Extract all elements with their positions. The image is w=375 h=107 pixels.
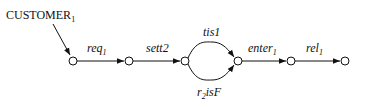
state-node-3 xyxy=(181,57,189,65)
label-rel1: rel1 xyxy=(306,41,323,57)
state-node-4 xyxy=(234,57,242,65)
label-enter1: enter1 xyxy=(248,41,277,57)
transition-diagram: CUSTOMER1 req1 sett2 tis1 r2isF enter1 r… xyxy=(0,0,375,107)
label-tis1: tis1 xyxy=(203,25,220,39)
edge-tis1 xyxy=(188,42,234,58)
state-node-2 xyxy=(125,57,133,65)
label-req1: req1 xyxy=(87,41,107,57)
state-node-1 xyxy=(69,57,77,65)
label-r2isF: r2isF xyxy=(197,85,222,101)
edge-r2isF xyxy=(188,64,234,80)
label-sett2: sett2 xyxy=(146,41,169,55)
customer-arrow xyxy=(53,24,70,55)
state-node-6 xyxy=(341,57,349,65)
customer-label: CUSTOMER1 xyxy=(6,8,75,24)
state-node-5 xyxy=(287,57,295,65)
